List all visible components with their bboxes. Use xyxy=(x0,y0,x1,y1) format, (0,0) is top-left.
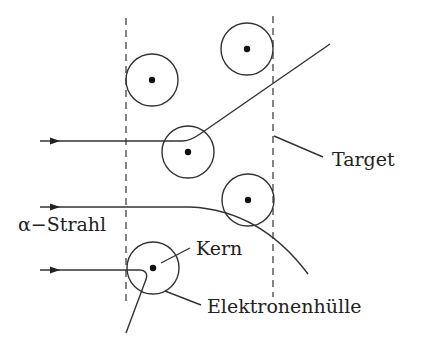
alpha-trajectory-backscatter xyxy=(40,270,147,333)
target-leader-line xyxy=(274,136,323,157)
nucleus xyxy=(245,197,251,203)
nucleus-label: Kern xyxy=(196,237,242,259)
atom xyxy=(221,23,273,75)
target-label: Target xyxy=(332,148,395,170)
arrow-right-icon xyxy=(50,204,60,211)
nucleus xyxy=(150,265,156,271)
nucleus-leader-line xyxy=(161,248,190,263)
nucleus xyxy=(149,77,155,83)
rutherford-scattering-diagram: Target α−Strahl Kern Elektronenhülle xyxy=(0,0,424,356)
arrow-right-icon xyxy=(50,267,60,274)
arrow-right-icon xyxy=(50,138,60,145)
atom xyxy=(222,174,274,226)
electron-shell-leader-line xyxy=(165,291,201,305)
electron-shell-label: Elektronenhülle xyxy=(207,295,361,317)
atom xyxy=(127,242,179,294)
atom xyxy=(162,126,214,178)
nucleus xyxy=(244,46,250,52)
alpha-beam-label: α−Strahl xyxy=(18,213,106,235)
atom xyxy=(126,54,178,106)
nucleus xyxy=(185,149,191,155)
